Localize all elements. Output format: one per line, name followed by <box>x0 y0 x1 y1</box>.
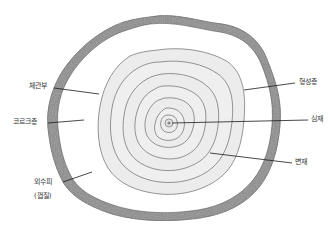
label-cork-layer: 코르크층 <box>13 118 37 127</box>
diagram-canvas <box>0 0 332 242</box>
label-phloem: 체관부 <box>29 82 47 91</box>
label-outer-bark-sub: (껍질) <box>34 192 51 201</box>
tree-cross-section-diagram: 체관부 코르크층 외수피 (껍질) 형성층 심재 변재 <box>0 0 332 242</box>
label-sapwood: 변재 <box>295 158 307 167</box>
pith-dot <box>167 121 170 124</box>
label-cambium: 형성층 <box>299 78 317 87</box>
label-outer-bark: 외수피 <box>34 178 52 187</box>
label-pith: 심재 <box>311 115 323 124</box>
